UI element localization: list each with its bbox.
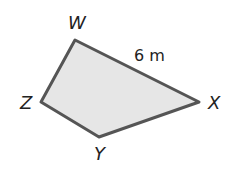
diagram-canvas: W X Y Z 6 m [0, 0, 231, 170]
quadrilateral-wxyz [41, 40, 199, 137]
vertex-label-z: Z [19, 92, 33, 113]
side-length-label: 6 m [134, 46, 165, 65]
vertex-label-w: W [68, 12, 87, 33]
vertex-label-x: X [207, 92, 221, 113]
vertex-label-y: Y [94, 143, 107, 164]
